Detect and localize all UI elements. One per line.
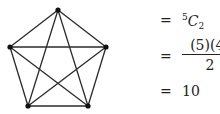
combination-k: 2 — [198, 21, 204, 31]
graph-edge — [10, 47, 88, 106]
graph-vertex — [55, 7, 60, 12]
graph-edge — [58, 10, 106, 47]
combination-letter: C — [188, 13, 199, 29]
graph-edges — [10, 10, 106, 106]
graph-edge — [28, 10, 58, 106]
fraction: (5)(4) 2 — [182, 38, 220, 72]
equals-sign: = — [160, 84, 172, 98]
graph-vertex — [103, 44, 108, 49]
result-value: 10 — [182, 84, 200, 98]
graph-edge — [10, 10, 58, 47]
graph-edge — [88, 47, 106, 106]
equals-sign: = — [160, 49, 172, 63]
graph-vertex — [85, 103, 90, 108]
equals-sign: = — [160, 13, 172, 27]
combination-expression: 5C2 — [182, 13, 204, 31]
graph-vertex — [25, 103, 30, 108]
fraction-numerator: (5)(4) — [182, 38, 220, 55]
graph-edge — [10, 47, 28, 106]
graph-edge — [58, 10, 88, 106]
graph-vertex — [7, 44, 12, 49]
graph-vertices — [7, 7, 108, 108]
fraction-denominator: 2 — [182, 55, 220, 72]
k5-graph — [0, 0, 120, 114]
graph-edge — [28, 47, 106, 106]
